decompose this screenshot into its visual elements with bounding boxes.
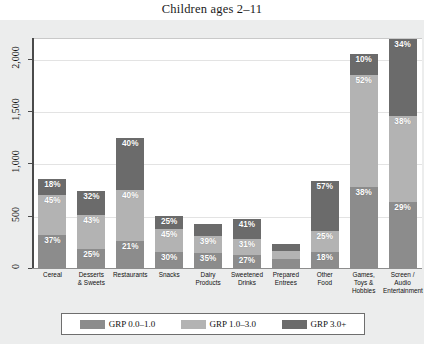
- bar-group[interactable]: 29%38%34%: [389, 38, 417, 268]
- bar-group[interactable]: 27%31%41%: [233, 38, 261, 268]
- chart-title: Children ages 2–11: [0, 2, 424, 17]
- y-tick-label: 1,500: [0, 104, 30, 115]
- stacked-bar[interactable]: 29%38%34%: [389, 39, 417, 268]
- x-axis-category-label: Other Food: [305, 271, 344, 287]
- bar-segment[interactable]: 38%: [350, 187, 378, 268]
- bar-segment-label: 37%: [38, 236, 66, 246]
- bar-segment[interactable]: 45%: [155, 229, 183, 253]
- bar-segment-label: 52%: [350, 76, 378, 86]
- bar-group[interactable]: 37%45%18%: [38, 38, 66, 268]
- legend-label: GRP 3.0+: [311, 319, 347, 329]
- bar-segment[interactable]: 25%: [155, 216, 183, 229]
- x-axis-category-label: Snacks: [150, 271, 189, 279]
- bar-segment[interactable]: 41%: [233, 219, 261, 239]
- bar-segment-label: 29%: [389, 203, 417, 213]
- bar-segment-label: 10%: [350, 55, 378, 65]
- stacked-bar[interactable]: 25%43%32%: [77, 191, 105, 268]
- bar-segment[interactable]: 25%: [311, 231, 339, 253]
- bar-segment[interactable]: 31%: [233, 239, 261, 254]
- bar-segment[interactable]: [272, 244, 300, 251]
- legend-item[interactable]: GRP 0.0–1.0: [80, 319, 155, 329]
- bar-group[interactable]: 21%40%40%: [116, 38, 144, 268]
- bar-segment-label: 40%: [116, 139, 144, 149]
- bar-segment-label: 38%: [389, 117, 417, 127]
- x-axis-category-label: Screen / Audio Entertainment: [383, 271, 422, 295]
- bar-segment[interactable]: 35%: [194, 253, 222, 268]
- legend-item[interactable]: GRP 3.0+: [282, 319, 347, 329]
- bar-group[interactable]: 38%52%10%: [350, 38, 378, 268]
- bar-segment-label: 40%: [116, 191, 144, 201]
- bar-segment[interactable]: 52%: [350, 75, 378, 186]
- bar-group[interactable]: 18%25%57%: [311, 38, 339, 268]
- stacked-bar[interactable]: 18%25%57%: [311, 181, 339, 268]
- x-axis-category-label: Restaurants: [111, 271, 150, 279]
- chart-legend: GRP 0.0–1.0GRP 1.0–3.0GRP 3.0+: [61, 313, 365, 335]
- stacked-bar[interactable]: 27%31%41%: [233, 219, 261, 268]
- x-axis-category-label: Sweetened Drinks: [228, 271, 267, 287]
- bar-segment[interactable]: 38%: [389, 116, 417, 202]
- bar-segment-label: 32%: [77, 192, 105, 202]
- stacked-bar[interactable]: [272, 244, 300, 268]
- bar-segment-label: 31%: [233, 240, 261, 250]
- bar-segment[interactable]: 27%: [233, 255, 261, 268]
- chart-figure: Children ages 2–11 37%45%18%25%43%32%21%…: [0, 0, 424, 344]
- legend-item[interactable]: GRP 1.0–3.0: [181, 319, 256, 329]
- bar-segment-label: 30%: [155, 253, 183, 263]
- x-axis-category-label: Cereal: [33, 271, 72, 279]
- x-axis-category-label: Games, Toys & Hobbies: [344, 271, 383, 295]
- bar-segment[interactable]: 40%: [116, 138, 144, 189]
- legend-label: GRP 0.0–1.0: [109, 319, 155, 329]
- bar-segment-label: 21%: [116, 242, 144, 252]
- bar-segment-label: 25%: [311, 232, 339, 242]
- bar-segment[interactable]: 39%: [194, 236, 222, 253]
- bar-segment[interactable]: 21%: [116, 241, 144, 268]
- x-axis-category-label: Desserts & Sweets: [72, 271, 111, 287]
- legend-swatch: [181, 320, 206, 329]
- y-tick-label-text: 1,500: [10, 98, 21, 121]
- bar-segment[interactable]: 40%: [116, 190, 144, 241]
- x-axis-line: [32, 268, 422, 269]
- bar-segment[interactable]: 43%: [77, 215, 105, 248]
- bar-segment-label: 25%: [77, 250, 105, 260]
- bar-segment[interactable]: [272, 251, 300, 259]
- stacked-bar[interactable]: 37%45%18%: [38, 179, 66, 268]
- bar-segment[interactable]: 18%: [311, 252, 339, 268]
- bar-segment[interactable]: 34%: [389, 39, 417, 116]
- bar-segment[interactable]: [194, 224, 222, 235]
- bar-group[interactable]: 30%45%25%: [155, 38, 183, 268]
- bar-segment-label: 27%: [233, 256, 261, 266]
- bar-segment-label: 38%: [350, 188, 378, 198]
- stacked-bar[interactable]: 30%45%25%: [155, 216, 183, 268]
- bar-segment[interactable]: 25%: [77, 249, 105, 268]
- y-tick-label-text: 500: [10, 207, 21, 222]
- bar-segment[interactable]: 18%: [38, 179, 66, 195]
- y-tick-label-text: 0: [10, 264, 21, 269]
- plot-area: 37%45%18%25%43%32%21%40%40%30%45%25%35%3…: [33, 38, 422, 268]
- bar-segment[interactable]: 30%: [155, 252, 183, 268]
- bar-segment[interactable]: 37%: [38, 235, 66, 268]
- x-axis-category-label: Dairy Products: [189, 271, 228, 287]
- bar-segment-label: 43%: [77, 216, 105, 226]
- bar-segment[interactable]: 10%: [350, 54, 378, 75]
- bar-group[interactable]: [272, 38, 300, 268]
- bar-segment[interactable]: 32%: [77, 191, 105, 216]
- bar-segment[interactable]: 57%: [311, 181, 339, 230]
- bar-segment[interactable]: [272, 259, 300, 268]
- bar-segment[interactable]: 29%: [389, 202, 417, 268]
- y-tick-label: 0: [0, 261, 30, 272]
- bar-group[interactable]: 25%43%32%: [77, 38, 105, 268]
- y-tick-label: 2,000: [0, 52, 30, 63]
- stacked-bar[interactable]: 35%39%: [194, 224, 222, 268]
- y-tick-label-text: 2,000: [10, 46, 21, 69]
- bar-segment-label: 57%: [311, 182, 339, 192]
- stacked-bar[interactable]: 21%40%40%: [116, 138, 144, 268]
- y-axis-line: [32, 38, 34, 269]
- legend-swatch: [80, 320, 105, 329]
- bar-segment[interactable]: 45%: [38, 195, 66, 235]
- bar-segment-label: 18%: [311, 253, 339, 263]
- y-tick-label: 1,000: [0, 156, 30, 167]
- stacked-bar[interactable]: 38%52%10%: [350, 54, 378, 268]
- bar-group[interactable]: 35%39%: [194, 38, 222, 268]
- y-tick-label: 500: [0, 209, 30, 220]
- bar-segment-label: 39%: [194, 237, 222, 247]
